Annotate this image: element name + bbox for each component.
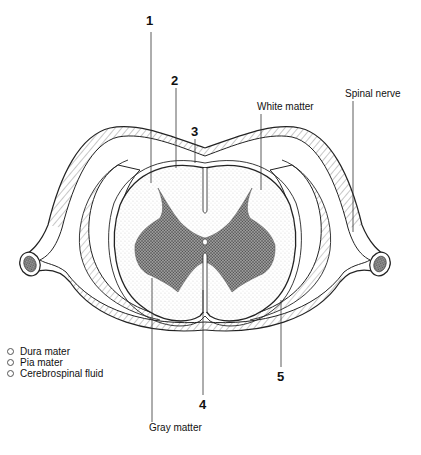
label-spinal-nerve: Spinal nerve xyxy=(345,88,401,99)
legend-item-dura-mater[interactable]: Dura mater xyxy=(7,346,103,357)
callout-3: 3 xyxy=(191,124,198,139)
callout-5: 5 xyxy=(277,369,284,384)
spinal-nerve-left-end xyxy=(16,249,43,278)
radio-icon[interactable] xyxy=(7,348,14,355)
legend-label: Pia mater xyxy=(20,357,63,368)
central-canal xyxy=(203,239,208,245)
legend-item-cerebrospinal-fluid[interactable]: Cerebrospinal fluid xyxy=(7,368,103,379)
legend-item-pia-mater[interactable]: Pia mater xyxy=(7,357,103,368)
spinal-nerve-right-end xyxy=(366,249,393,278)
radio-icon[interactable] xyxy=(7,370,14,377)
spinal-cord xyxy=(109,161,302,326)
legend-label: Cerebrospinal fluid xyxy=(20,368,103,379)
legend: Dura mater Pia mater Cerebrospinal fluid xyxy=(7,346,103,379)
callout-4: 4 xyxy=(199,397,206,412)
anterior-median-fissure xyxy=(203,253,207,312)
callout-2: 2 xyxy=(171,73,178,88)
label-white-matter: White matter xyxy=(257,101,314,112)
legend-label: Dura mater xyxy=(20,346,70,357)
label-gray-matter: Gray matter xyxy=(149,422,202,433)
callout-1: 1 xyxy=(146,13,153,28)
posterior-median-sulcus xyxy=(203,168,207,213)
spinal-cord-diagram xyxy=(0,0,421,455)
radio-icon[interactable] xyxy=(7,359,14,366)
